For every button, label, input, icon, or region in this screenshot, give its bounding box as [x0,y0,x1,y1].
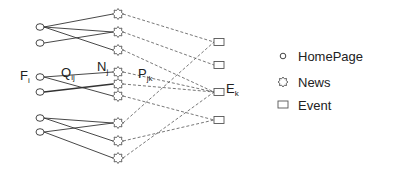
dashed-edge [123,96,214,120]
news-node-icon [113,91,124,102]
legend-label: HomePage [298,49,363,64]
news-node-icon [113,79,124,90]
legend-label: Event [298,98,331,113]
solid-edge [44,77,113,96]
diagram-canvas: Fi Qij Nj Pjk Ek HomePage News [0,0,396,171]
solid-edge [44,132,113,158]
legend-item-homepage: HomePage [276,44,363,68]
legend-item-news: News [276,70,363,94]
solid-edge [44,27,113,32]
label-P: Pjk [138,66,153,83]
news-node-icon [113,27,124,38]
event-node-icon [214,62,224,69]
solid-edge [44,84,113,92]
news-node-icon [113,9,124,20]
dashed-edges [123,14,214,158]
solid-edge [44,32,113,43]
svg-text:Pjk: Pjk [138,66,153,83]
svg-text:Ek: Ek [226,81,240,98]
dashed-edge [123,42,214,123]
dashed-edge [123,84,214,92]
event-node-icon [214,117,224,124]
homepage-node-icon [36,129,44,136]
solid-edge [44,27,113,50]
homepage-node-icon [36,24,44,31]
dashed-edge [123,50,214,92]
solid-edges [44,14,113,158]
news-node-icon [113,136,124,147]
legend: HomePage News Event [276,44,363,117]
star-icon [276,75,290,89]
square-icon [276,98,290,112]
news-node-icon [113,153,124,164]
solid-edge [44,118,113,123]
event-node-icon [214,89,224,96]
homepage-node-icon [36,74,44,81]
legend-item-event: Event [276,93,363,117]
label-N: Nj [97,59,108,76]
label-F: Fi [20,68,30,85]
dashed-edge [123,92,214,158]
homepage-node-icon [36,89,44,96]
homepage-node-icon [36,40,44,47]
label-Q: Qij [61,65,75,82]
news-node-icon [113,118,124,129]
svg-text:Fi: Fi [20,68,30,85]
solid-edge [44,14,113,27]
label-E: Ek [226,81,240,98]
svg-text:Qij: Qij [61,65,75,82]
news-node-icon [113,67,124,78]
circle-icon [276,49,290,63]
nodes [36,9,224,164]
news-node-icon [113,45,124,56]
solid-edge [44,118,113,141]
homepage-node-icon [36,115,44,122]
dashed-edge [123,32,214,65]
dashed-edge [123,14,214,42]
dashed-edge [123,120,214,141]
event-node-icon [214,39,224,46]
svg-text:Nj: Nj [97,59,108,76]
solid-edge [44,123,113,132]
legend-label: News [298,75,331,90]
